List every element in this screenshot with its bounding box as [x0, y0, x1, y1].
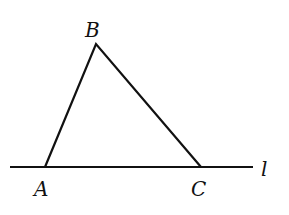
label-c: C — [191, 177, 206, 201]
label-b: B — [84, 18, 100, 42]
triangle-diagram: B A C l — [0, 0, 289, 215]
triangle-abc — [45, 44, 201, 167]
label-a: A — [32, 177, 48, 201]
label-line-l: l — [261, 157, 267, 181]
